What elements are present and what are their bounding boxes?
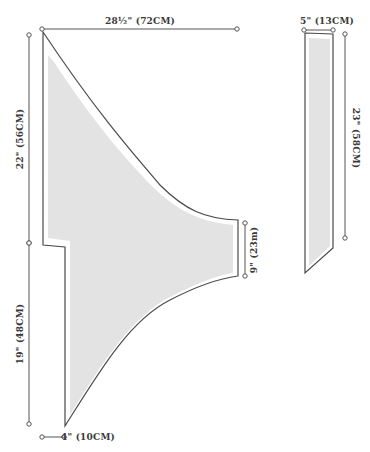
strip-piece xyxy=(305,33,333,273)
top-width-measure xyxy=(40,27,239,31)
main-body-piece xyxy=(43,32,238,426)
upper-left-height-measure xyxy=(27,33,31,245)
endpoint-circle-icon xyxy=(243,274,247,278)
strip-height-measure xyxy=(343,32,347,240)
endpoint-circle-icon xyxy=(235,27,239,31)
upper-left-height-measure-label: 22" (56CM) xyxy=(15,109,25,170)
endpoint-circle-icon xyxy=(243,221,247,225)
lower-left-height-measure-label: 19" (48CM) xyxy=(15,304,25,365)
endpoint-circle-icon xyxy=(27,33,31,37)
endpoint-circle-icon xyxy=(27,422,31,426)
main-body-piece-fill xyxy=(48,55,233,415)
endpoint-circle-icon xyxy=(302,28,306,32)
endpoint-circle-icon xyxy=(40,435,44,439)
endpoint-circle-icon xyxy=(27,241,31,245)
endpoint-circle-icon xyxy=(331,28,335,32)
pattern-diagram xyxy=(0,0,370,452)
strip-width-measure-label: 5" (13CM) xyxy=(300,16,354,26)
strip-piece-fill xyxy=(309,38,330,266)
right-end-height-measure-label: 9" (23m) xyxy=(249,227,259,273)
endpoint-circle-icon xyxy=(343,32,347,36)
pattern-pieces xyxy=(43,32,333,426)
right-end-height-measure xyxy=(243,221,247,278)
lower-left-height-measure xyxy=(27,241,31,426)
strip-width-measure xyxy=(302,28,335,32)
endpoint-circle-icon xyxy=(40,27,44,31)
top-width-measure-label: 28½" (72CM) xyxy=(105,16,175,26)
endpoint-circle-icon xyxy=(343,236,347,240)
strip-height-measure-label: 23" (58CM) xyxy=(351,108,361,169)
bottom-width-measure-label: 4" (10CM) xyxy=(61,432,115,442)
